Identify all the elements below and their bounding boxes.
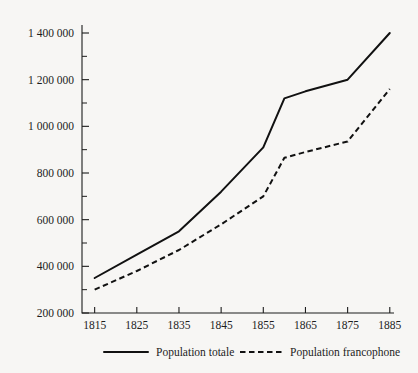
chart-canvas: 200 000400 000600 000800 0001 000 0001 2… [0, 0, 418, 373]
x-tick-label: 1875 [336, 319, 359, 331]
x-axis-tick-labels: 18151825183518451855186518751885 [83, 319, 401, 331]
legend-label-population-francophone: Population francophone [290, 346, 400, 359]
series-population-francophone [95, 89, 390, 290]
population-line-chart: 200 000400 000600 000800 0001 000 0001 2… [0, 0, 418, 373]
y-tick-label: 600 000 [37, 214, 75, 226]
y-tick-label: 1 400 000 [28, 27, 74, 39]
chart-legend: Population totale Population francophone [104, 346, 400, 359]
y-tick-label: 200 000 [37, 307, 75, 319]
y-axis-tick-labels: 200 000400 000600 000800 0001 000 0001 2… [28, 27, 74, 319]
x-tick-label: 1845 [210, 319, 233, 331]
series-population-totale [95, 33, 390, 278]
legend-label-population-totale: Population totale [156, 346, 234, 359]
y-tick-label: 800 000 [37, 167, 75, 179]
y-tick-label: 1 000 000 [28, 120, 74, 132]
x-tick-label: 1835 [167, 319, 190, 331]
x-tick-label: 1815 [83, 319, 106, 331]
y-axis-ticks [82, 33, 89, 313]
y-tick-label: 400 000 [37, 260, 75, 272]
x-tick-label: 1825 [125, 319, 148, 331]
y-tick-label: 1 200 000 [28, 74, 74, 86]
x-tick-label: 1865 [294, 319, 317, 331]
x-axis-ticks [95, 307, 390, 313]
x-tick-label: 1855 [252, 319, 275, 331]
x-tick-label: 1885 [378, 319, 401, 331]
axis-lines [82, 25, 394, 313]
